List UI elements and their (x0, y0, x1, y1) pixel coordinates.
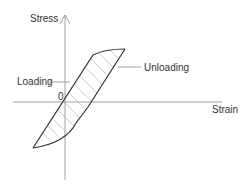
hatch-fill (30, 22, 170, 160)
loading-label: Loading (17, 77, 53, 87)
y-axis-label: Stress (30, 14, 58, 24)
x-axis-label: Strain (212, 105, 238, 115)
unloading-curve (33, 49, 125, 148)
unloading-label: Unloading (144, 63, 189, 73)
loading-curve (33, 49, 125, 148)
origin-label: 0 (58, 92, 64, 102)
hysteresis-diagram: Stress Strain 0 Loading Unloading (0, 0, 245, 185)
